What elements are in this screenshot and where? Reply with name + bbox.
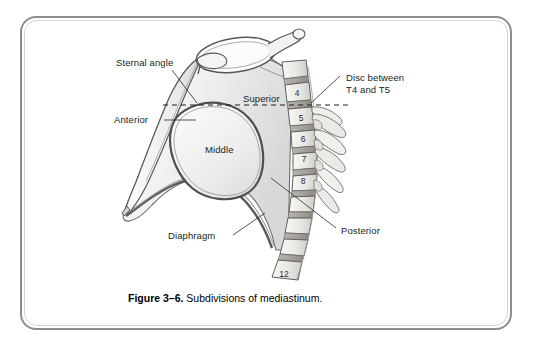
figure-caption: Figure 3–6. Subdivisions of mediastinum. <box>128 292 322 304</box>
label-sternal-angle: Sternal angle <box>116 57 173 69</box>
vertebra-number-7: 7 <box>297 154 311 164</box>
vertebra-number-4: 4 <box>290 88 304 98</box>
label-disc-between-t4-t5: Disc between T4 and T5 <box>346 72 404 95</box>
label-posterior: Posterior <box>341 225 380 237</box>
label-anterior: Anterior <box>114 114 148 126</box>
vertebra-number-8: 8 <box>296 176 310 186</box>
figure-page: Sternal angle Anterior Superior Middle D… <box>0 0 536 349</box>
label-superior: Superior <box>243 93 280 105</box>
caption-figure-number: Figure 3–6. <box>128 292 183 304</box>
vertebra-number-6: 6 <box>296 134 310 144</box>
label-diaphragm: Diaphragm <box>168 230 215 242</box>
caption-figure-text: Subdivisions of mediastinum. <box>183 292 322 304</box>
vertebra-number-12: 12 <box>277 269 291 279</box>
label-middle: Middle <box>205 144 234 156</box>
leader-disc <box>311 76 340 103</box>
vertebra-number-5: 5 <box>294 113 308 123</box>
